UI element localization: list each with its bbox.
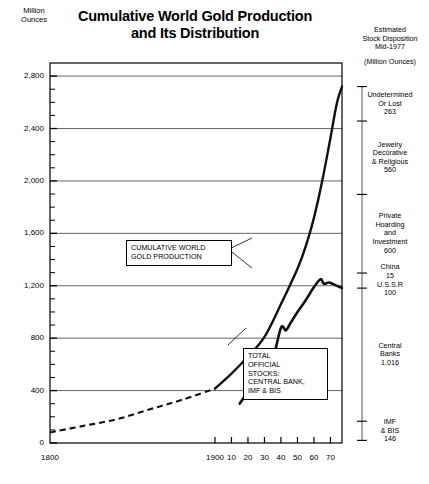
segment-label-line: 146 — [353, 435, 427, 444]
y-axis-tick-label: 0 — [4, 438, 44, 447]
grid-lines — [50, 76, 342, 390]
y-axis-tick-label: 2,800 — [4, 71, 44, 80]
callout-stocks-line5: IMF & BIS — [248, 387, 323, 396]
y-axis-tick-label: 1,200 — [4, 281, 44, 290]
x-axis-tick-label: 70 — [314, 453, 346, 462]
callout-official-stocks: TOTAL OFFICIAL STOCKS: CENTRAL BANK, IMF… — [243, 348, 328, 400]
right-panel-segment-2: JewelryDecorative& Religious560 — [353, 141, 427, 175]
segment-label-line: 263 — [353, 108, 427, 117]
y-axis-tick-label: 2,000 — [4, 176, 44, 185]
y-axis-tick-label: 400 — [4, 386, 44, 395]
right-panel-segment-5: CentralBanks1,016 — [353, 342, 427, 368]
callout-cumulative-production: CUMULATIVE WORLD GOLD PRODUCTION — [126, 240, 232, 266]
segment-label-line: 1,016 — [353, 359, 427, 368]
x-axis-tick-label: 1800 — [34, 453, 66, 462]
y-axis-ticks — [50, 76, 57, 443]
y-axis-tick-label: 1,600 — [4, 228, 44, 237]
y-axis-tick-label: 800 — [4, 333, 44, 342]
callout-stocks-leader-line — [228, 328, 246, 345]
y-axis-tick-label: 2,400 — [4, 124, 44, 133]
series-cumulative-production — [215, 87, 342, 389]
segment-label-line: 560 — [353, 166, 427, 175]
series-cumulative-production-dashed — [50, 389, 215, 433]
callout-production-line2: GOLD PRODUCTION — [131, 253, 227, 262]
segment-label-line: 100 — [353, 289, 427, 298]
segment-label-line: 600 — [353, 247, 427, 256]
right-panel-segment-3: PrivateHoardingandInvestment600 — [353, 212, 427, 255]
right-panel-segment-1: UndeterminedOr Lost263 — [353, 91, 427, 117]
right-panel-segment-6: IMF& BIS146 — [353, 418, 427, 444]
right-panel-segment-4: China15U.S.S.R100 — [353, 263, 427, 297]
x-axis-ticks — [215, 437, 330, 443]
